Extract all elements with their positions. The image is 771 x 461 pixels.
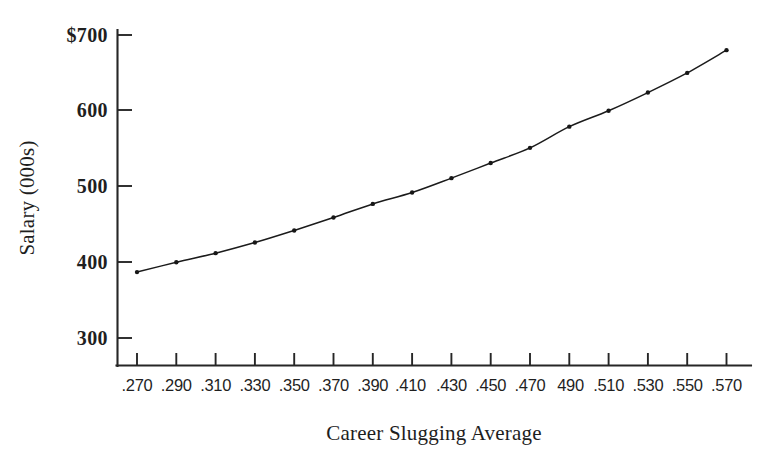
data-point-13 (646, 90, 650, 94)
x-tick-label-3: .330 (239, 376, 270, 394)
x-axis-title: Career Slugging Average (326, 421, 541, 445)
y-axis-ticks (118, 35, 132, 338)
data-point-8 (449, 176, 453, 180)
data-point-12 (606, 109, 610, 113)
chart-canvas: $700 600 500 400 300 .270 (0, 0, 771, 461)
x-tick-label-4: .350 (279, 376, 310, 394)
data-point-6 (371, 202, 375, 206)
x-tick-label-7: .410 (395, 376, 426, 394)
data-point-3 (253, 240, 257, 244)
data-point-7 (410, 190, 414, 194)
x-tick-label-6: .390 (357, 376, 388, 394)
data-point-15 (724, 48, 728, 52)
data-point-5 (331, 215, 335, 219)
x-tick-label-15: .570 (711, 376, 742, 394)
x-tick-label-11: 490 (557, 376, 584, 394)
y-tick-label-700: $700 (66, 24, 108, 46)
data-point-14 (685, 71, 689, 75)
x-axis-tick-labels: .270 .290 .310 .330 .350 .370 .390 .410 … (122, 376, 743, 394)
x-tick-label-8: .430 (436, 376, 467, 394)
x-tick-label-2: .310 (200, 376, 231, 394)
data-point-4 (292, 228, 296, 232)
y-tick-label-400: 400 (77, 251, 108, 273)
y-tick-label-300: 300 (77, 327, 108, 349)
chart-figure: $700 600 500 400 300 .270 (0, 0, 771, 461)
data-point-1 (174, 260, 178, 264)
x-axis-ticks (137, 353, 727, 365)
x-tick-label-9: .450 (475, 376, 506, 394)
salary-curve (137, 50, 727, 272)
salary-curve-markers (135, 48, 729, 274)
data-point-0 (135, 270, 139, 274)
y-axis-title: Salary (000s) (15, 140, 39, 255)
x-tick-label-10: .470 (515, 376, 546, 394)
data-point-10 (528, 146, 532, 150)
x-tick-label-1: .290 (161, 376, 192, 394)
x-tick-label-14: .550 (672, 376, 703, 394)
data-point-11 (567, 124, 571, 128)
x-tick-label-0: .270 (122, 376, 153, 394)
y-axis-tick-labels: $700 600 500 400 300 (66, 24, 108, 349)
x-tick-label-5: .370 (318, 376, 349, 394)
data-point-2 (213, 251, 217, 255)
x-tick-label-12: .510 (593, 376, 624, 394)
y-tick-label-500: 500 (77, 175, 108, 197)
data-point-9 (489, 161, 493, 165)
y-tick-label-600: 600 (77, 99, 108, 121)
x-tick-label-13: .530 (632, 376, 663, 394)
